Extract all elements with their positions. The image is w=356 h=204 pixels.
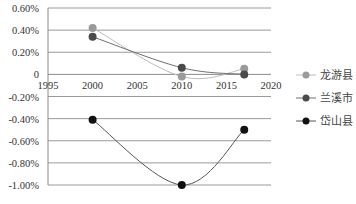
series-2: [89, 116, 249, 189]
x-tick-label: 2010: [171, 80, 192, 91]
series-line: [93, 120, 245, 185]
data-series: [89, 24, 249, 189]
y-tick-label: -0.60%: [8, 136, 39, 147]
legend-marker-icon: [303, 118, 310, 125]
x-tick-label: 2000: [82, 80, 103, 91]
x-tick-label: 2015: [216, 80, 237, 91]
data-point-marker: [89, 33, 97, 41]
y-tick-label: 0.20%: [12, 47, 39, 58]
legend-item: 龙游县: [296, 69, 353, 81]
y-axis: 0.60%0.40%0.20%0-0.20%-0.40%-0.60%-0.80%…: [8, 3, 48, 191]
gridlines: [48, 8, 271, 185]
x-tick-label: 1995: [38, 80, 59, 91]
legend-label: 兰溪市: [320, 91, 353, 104]
data-point-marker: [240, 70, 248, 78]
legend: 龙游县兰溪市岱山县: [296, 69, 353, 127]
x-axis: 199520002005201020152020: [38, 80, 282, 91]
legend-marker-icon: [303, 95, 310, 102]
x-tick-label: 2005: [127, 80, 148, 91]
legend-item: 岱山县: [296, 114, 353, 127]
y-tick-label: 0.60%: [12, 3, 39, 14]
data-point-marker: [240, 126, 248, 134]
data-point-marker: [178, 73, 186, 81]
y-tick-label: 0.40%: [12, 25, 39, 36]
y-tick-label: -0.20%: [8, 92, 39, 103]
x-tick-label: 2020: [261, 80, 282, 91]
legend-label: 岱山县: [320, 114, 353, 127]
line-chart: 0.60%0.40%0.20%0-0.20%-0.40%-0.60%-0.80%…: [0, 0, 356, 204]
legend-marker-icon: [303, 72, 310, 79]
data-point-marker: [89, 116, 97, 124]
data-point-marker: [178, 64, 186, 72]
y-tick-label: -0.40%: [8, 114, 39, 125]
y-tick-label: -0.80%: [8, 158, 39, 169]
legend-label: 龙游县: [320, 69, 353, 81]
legend-item: 兰溪市: [296, 91, 353, 104]
y-tick-label: 0: [34, 69, 39, 80]
y-tick-label: -1.00%: [8, 180, 39, 191]
series-line: [93, 28, 245, 79]
data-point-marker: [178, 181, 186, 189]
data-point-marker: [89, 24, 97, 32]
